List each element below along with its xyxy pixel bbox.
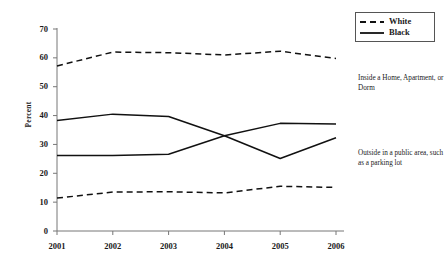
legend-label-black: Black [389,28,410,37]
series-line-0 [57,51,336,66]
legend-swatch-dashed-icon [359,18,385,26]
legend-label-white: White [389,17,411,26]
data-series [57,51,336,198]
legend: White Black [355,12,435,42]
series-line-2 [57,136,336,159]
legend-entry-black: Black [359,27,430,38]
series-line-3 [57,186,336,198]
line-chart: Percent 010203040506070 2001200220032004… [0,0,444,269]
annotation-outside-public: Outside in a public area, such as a park… [358,148,444,169]
series-line-1 [57,114,336,136]
legend-entry-white: White [359,16,430,27]
annotation-inside-home: Inside a Home, Apartment, or Dorm [358,73,444,94]
axes [53,28,344,235]
legend-swatch-solid-icon [359,29,385,37]
